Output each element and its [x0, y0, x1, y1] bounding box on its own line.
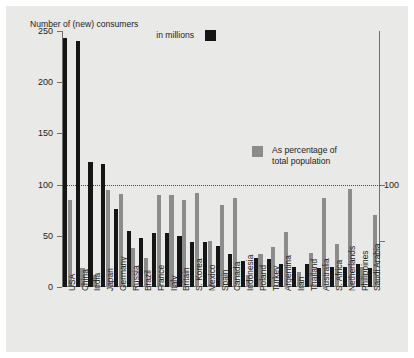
x-axis-label: Netherlands	[347, 246, 357, 291]
x-axis-label: USA	[67, 274, 77, 291]
bar	[63, 38, 67, 287]
bar-group	[190, 31, 203, 287]
x-axis-label: Australia	[321, 258, 331, 291]
bar-group	[279, 31, 292, 287]
right-axis-label: 100	[384, 180, 399, 190]
bar-group	[139, 31, 152, 287]
bar-group	[356, 31, 369, 287]
bar	[76, 41, 80, 287]
x-axis-label: Thailand	[309, 259, 319, 291]
x-axis-label: Indonesia	[245, 255, 255, 291]
plot-area: 050100150200250 100 USAChinaIndiaJapanGe…	[62, 31, 380, 287]
x-axis-label: Canada	[232, 262, 242, 291]
x-axis-label: Poland	[258, 265, 268, 291]
y-axis-tick-label: 100	[38, 180, 53, 190]
bar-group	[114, 31, 127, 287]
x-axis-label: Philippines	[360, 250, 370, 291]
bar-group	[228, 31, 241, 287]
x-axis-label: Spain	[220, 270, 230, 291]
x-axis-label: Brazil	[143, 270, 153, 291]
bar-group	[216, 31, 229, 287]
y-axis-tick	[57, 133, 62, 134]
y-axis-tick-label: 0	[48, 282, 53, 292]
x-axis-label: S. Africa	[334, 260, 344, 291]
bar-group	[305, 31, 318, 287]
x-axis-label: Britain	[181, 267, 191, 291]
bar-group	[127, 31, 140, 287]
bar-group	[330, 31, 343, 287]
bar-group	[88, 31, 101, 287]
y-axis-tick-label: 50	[43, 231, 53, 241]
y-axis-tick	[57, 287, 62, 288]
bar-group	[267, 31, 280, 287]
bar-group	[101, 31, 114, 287]
bar-group	[317, 31, 330, 287]
bar-group	[177, 31, 190, 287]
x-axis-label: China	[80, 269, 90, 291]
x-axis-label: Iran	[296, 277, 306, 291]
bar-group	[76, 31, 89, 287]
y-axis-tick-label: 150	[38, 128, 53, 138]
bar-group	[165, 31, 178, 287]
bar-group	[152, 31, 165, 287]
y-axis-tick-label: 200	[38, 77, 53, 87]
x-axis-label: S. Korea	[194, 258, 204, 291]
x-axis-label: Italy	[169, 276, 179, 291]
x-axis-label: Turkey	[271, 266, 281, 291]
bar-group	[254, 31, 267, 287]
y-axis-tick	[57, 31, 62, 32]
bar-group	[292, 31, 305, 287]
chart-figure: Number of (new) consumers in millions As…	[6, 6, 408, 352]
x-axis-label: Mexico	[207, 264, 217, 291]
bar-group	[241, 31, 254, 287]
x-axis-label: Japan	[105, 268, 115, 291]
y-axis-tick	[57, 236, 62, 237]
bar-group	[203, 31, 216, 287]
y-axis-tick-label: 250	[38, 26, 53, 36]
bar	[169, 195, 173, 287]
x-axis-label: France	[156, 265, 166, 291]
x-axis-label: India	[92, 273, 102, 291]
y-axis-tick	[57, 82, 62, 83]
x-axis-label: Argentina	[283, 255, 293, 291]
x-axis-label: Russia	[131, 265, 141, 291]
bar-group	[63, 31, 76, 287]
x-axis-label: Germany	[118, 257, 128, 291]
x-axis-label: Saudi Arabia	[372, 244, 382, 292]
